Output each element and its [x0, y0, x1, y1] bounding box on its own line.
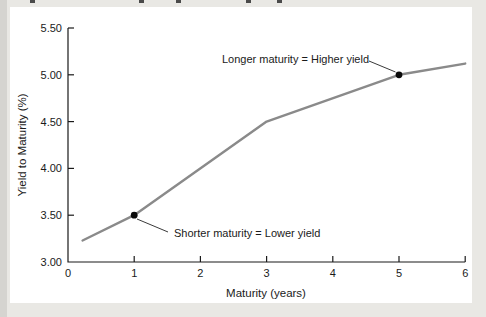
x-tick-label: 0: [65, 267, 71, 279]
y-axis-title: Yield to Maturity (%): [16, 93, 28, 196]
x-axis-title: Maturity (years): [226, 287, 306, 299]
cropped-text-mark: [246, 0, 251, 3]
cropped-text-mark: [277, 0, 282, 3]
x-tick-label: 2: [197, 267, 203, 279]
x-tick-label: 4: [330, 267, 336, 279]
x-tick-label: 5: [396, 267, 402, 279]
cropped-text-mark: [139, 0, 144, 3]
y-tick-label: 3.50: [41, 209, 62, 221]
cropped-text-mark: [30, 0, 35, 3]
x-tick-label: 3: [264, 267, 270, 279]
yield-curve-chart: 01234563.003.504.004.505.005.50 Longer m…: [0, 0, 486, 317]
x-tick-label: 6: [462, 267, 468, 279]
data-point-marker: [396, 71, 403, 78]
annotation-longer-maturity: Longer maturity = Higher yield: [222, 53, 369, 65]
yield-curve-figure: 01234563.003.504.004.505.005.50 Longer m…: [0, 0, 486, 317]
y-tick-label: 3.00: [41, 256, 62, 268]
y-tick-label: 4.00: [41, 162, 62, 174]
chart-panel: [10, 7, 472, 303]
y-tick-label: 5.00: [41, 69, 62, 81]
x-tick-label: 1: [131, 267, 137, 279]
y-tick-label: 4.50: [41, 116, 62, 128]
page-left-edge: [0, 0, 7, 317]
annotation-shorter-maturity: Shorter maturity = Lower yield: [174, 227, 320, 239]
cropped-text-mark: [176, 0, 181, 3]
data-point-marker: [131, 212, 138, 219]
y-tick-label: 5.50: [41, 22, 62, 34]
